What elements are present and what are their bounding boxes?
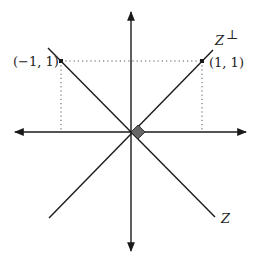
right-angle-marker [131,125,145,139]
point-right-dot [200,59,204,63]
label-z-perp-superscript: ⊥ [226,27,238,42]
label-point-left: (−1, 1) [13,54,59,69]
label-z: Z [220,211,231,226]
label-z-perp: Z [214,33,225,48]
point-left-dot [59,59,63,63]
label-point-right: (1, 1) [209,55,244,70]
diagram-canvas: (−1, 1) (1, 1) Z ⊥ Z [0,0,259,263]
